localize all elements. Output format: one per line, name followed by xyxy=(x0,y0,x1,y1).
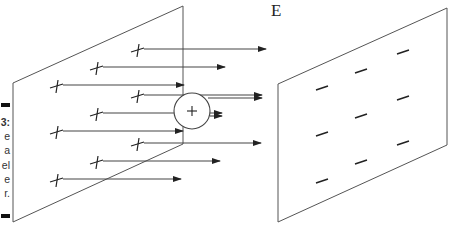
plus-charge-icon xyxy=(50,80,63,93)
plus-charge-icon xyxy=(90,156,103,169)
minus-charge-icon xyxy=(316,179,328,183)
plus-charge-icon xyxy=(50,126,63,139)
positive-plate xyxy=(13,6,183,222)
minus-charge-icon xyxy=(316,86,328,90)
plus-charge-icon xyxy=(131,44,144,57)
parallel-plate-diagram: 3: e a el e r. E xyxy=(0,0,451,233)
test-charge xyxy=(174,93,262,129)
plus-charge-icon xyxy=(131,138,144,151)
plus-charge-icon xyxy=(131,90,144,103)
negative-plate xyxy=(278,8,447,222)
minus-charge-icon xyxy=(355,160,367,164)
minus-charge-icon xyxy=(397,50,409,54)
minus-charge-icon xyxy=(397,96,409,100)
minus-charge-icon xyxy=(355,114,367,118)
plus-charge-icon xyxy=(50,174,63,187)
minus-charge-icon xyxy=(397,141,409,145)
plus-charge-icon xyxy=(90,108,103,121)
diagram-canvas xyxy=(0,0,451,233)
plus-charge-icon xyxy=(90,62,103,75)
minus-charge-icon xyxy=(316,132,328,136)
minus-charge-icon xyxy=(355,69,367,73)
